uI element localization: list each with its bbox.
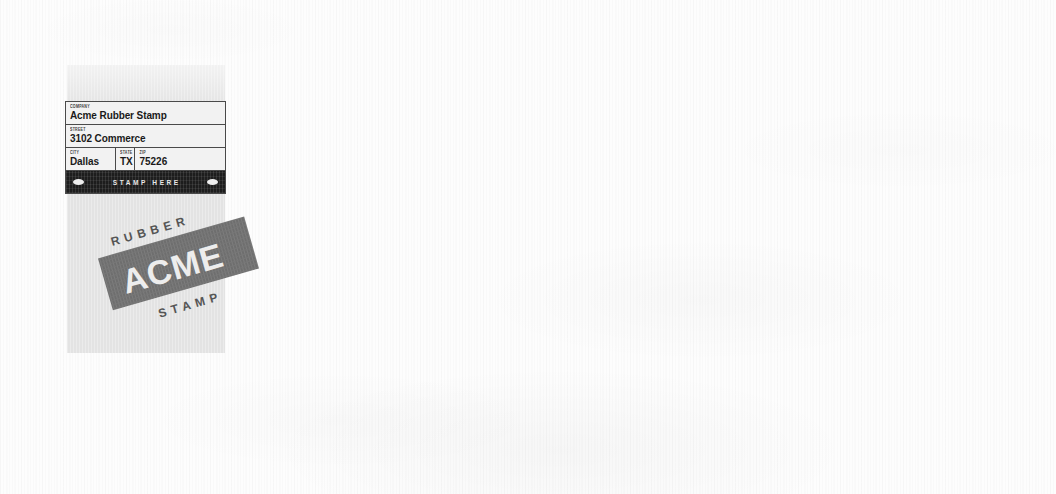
form-row-street: STREET 3102 Commerce bbox=[66, 125, 225, 148]
stamp-here-bar: STAMP HERE bbox=[66, 171, 225, 193]
field-city-value: Dallas bbox=[70, 156, 115, 168]
field-street-label: STREET bbox=[70, 127, 225, 133]
field-state-value: TX bbox=[120, 156, 134, 168]
field-state-label: STATE bbox=[120, 150, 134, 156]
field-zip-value: 75226 bbox=[139, 156, 225, 168]
field-street-value: 3102 Commerce bbox=[70, 133, 225, 145]
field-city-label: CITY bbox=[70, 150, 115, 156]
acme-logo: ACME RUBBER STAMP bbox=[98, 206, 248, 326]
oval-ornament-left-icon bbox=[73, 179, 84, 185]
form-row-company: COMPANY Acme Rubber Stamp bbox=[66, 102, 225, 125]
field-company-label: COMPANY bbox=[70, 104, 225, 110]
field-state[interactable]: STATE TX bbox=[115, 148, 134, 170]
field-company[interactable]: COMPANY Acme Rubber Stamp bbox=[66, 102, 225, 124]
field-street[interactable]: STREET 3102 Commerce bbox=[66, 125, 225, 147]
field-zip[interactable]: ZIP 75226 bbox=[134, 148, 225, 170]
return-address-form: COMPANY Acme Rubber Stamp STREET 3102 Co… bbox=[65, 101, 226, 194]
field-company-value: Acme Rubber Stamp bbox=[70, 110, 225, 122]
stamp-here-label: STAMP HERE bbox=[110, 179, 181, 186]
field-city[interactable]: CITY Dallas bbox=[66, 148, 115, 170]
oval-ornament-right-icon bbox=[207, 179, 218, 185]
form-row-city-state-zip: CITY Dallas STATE TX ZIP 75226 bbox=[66, 148, 225, 171]
field-zip-label: ZIP bbox=[139, 150, 225, 156]
